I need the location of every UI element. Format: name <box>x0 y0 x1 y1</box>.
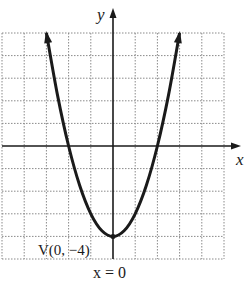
x-axis-arrow <box>231 143 241 150</box>
y-axis-arrow <box>110 8 117 18</box>
vertex-label: V(0, −4) <box>38 242 90 259</box>
axes <box>2 8 241 259</box>
curve-arrow-right <box>174 31 182 44</box>
y-axis-label: y <box>95 5 105 24</box>
parabola-chart: x y V(0, −4) x = 0 <box>0 0 251 283</box>
x-axis-label: x <box>235 150 244 169</box>
axis-of-symmetry-label: x = 0 <box>93 264 126 281</box>
vertex-point <box>111 234 116 239</box>
